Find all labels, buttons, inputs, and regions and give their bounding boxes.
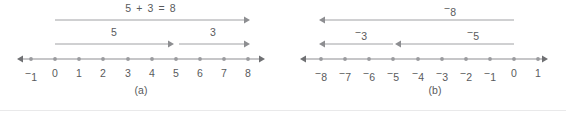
negative-sign-icon: −	[460, 67, 466, 79]
negative-sign-icon: −	[387, 67, 393, 79]
first-addend-label-a: 5	[111, 26, 117, 38]
axis-b	[300, 55, 548, 62]
negative-sign-icon: −	[412, 67, 418, 79]
tick-label-a-2: 2	[100, 67, 106, 79]
second-addend-label-b: −3	[355, 26, 368, 42]
tick-label-b-neg3: −3	[436, 67, 448, 83]
negative-sign-icon: −	[484, 67, 490, 79]
second-addend-label-a: 3	[210, 26, 216, 38]
panel-b-graphics	[283, 0, 566, 104]
tick-label-b-neg1: −1	[484, 67, 496, 83]
tick-label-b-neg8: −8	[315, 67, 327, 83]
tick-label-b-neg4: −4	[412, 67, 424, 83]
number-line-figure: 5 + 3 = 8 5 3 −1 0 1 2 3 4 5 6 7 8 (a)	[0, 0, 566, 114]
tick-label-a-8: 8	[245, 67, 251, 79]
tick-label-b-neg7: −7	[339, 67, 351, 83]
negative-sign-icon: −	[444, 2, 450, 14]
tick-label-b-neg2: −2	[460, 67, 472, 83]
negative-sign-icon: −	[315, 67, 321, 79]
tick-label-b-neg5: −5	[387, 67, 399, 83]
total-arrow-a	[55, 17, 250, 24]
second-addend-arrow-a	[179, 41, 250, 48]
negative-sign-icon: −	[467, 26, 473, 38]
negative-sign-icon: −	[363, 67, 369, 79]
tick-label-a-7: 7	[221, 67, 227, 79]
first-addend-label-b: −5	[467, 26, 480, 42]
tick-label-a-5: 5	[173, 67, 179, 79]
footer-divider	[0, 110, 566, 111]
negative-sign-icon: −	[355, 26, 361, 38]
equation-text-a: 5 + 3 = 8	[125, 2, 176, 14]
panel-a: 5 + 3 = 8 5 3 −1 0 1 2 3 4 5 6 7 8 (a)	[0, 0, 283, 104]
equation-label-b: −8	[444, 2, 457, 18]
tick-label-a-0: 0	[52, 67, 58, 79]
tick-label-b-neg6: −6	[363, 67, 375, 83]
equation-label-a: 5 + 3 = 8	[125, 2, 176, 14]
panel-b: −8 −3 −5 −8 −7 −6 −5 −4 −3 −2 −1 0 1 (b)	[283, 0, 566, 104]
first-addend-arrow-b	[395, 41, 514, 48]
tick-label-b-1: 1	[535, 67, 541, 79]
caption-a: (a)	[135, 84, 148, 96]
negative-sign-icon: −	[339, 67, 345, 79]
total-value-b: 8	[450, 6, 456, 18]
first-addend-arrow-a	[55, 41, 174, 48]
total-arrow-b	[319, 17, 514, 24]
tick-label-a-3: 3	[125, 67, 131, 79]
tick-label-a-4: 4	[149, 67, 155, 79]
tick-label-a-6: 6	[197, 67, 203, 79]
caption-b: (b)	[429, 84, 442, 96]
tick-label-a-1: 1	[76, 67, 82, 79]
negative-sign-icon: −	[436, 67, 442, 79]
tick-label-b-0: 0	[511, 67, 517, 79]
tick-label-a-neg1: −1	[25, 67, 37, 83]
negative-sign-icon: −	[25, 67, 31, 79]
